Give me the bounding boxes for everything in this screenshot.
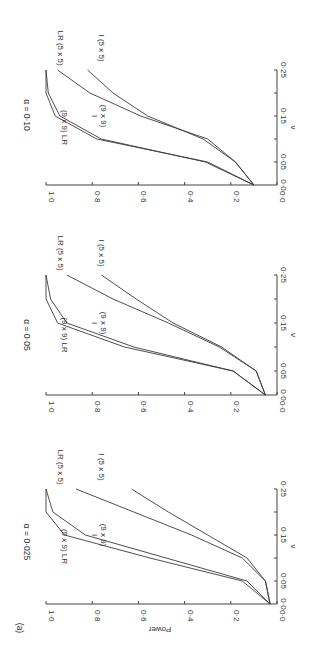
power-tick-label: 0·8 [93, 191, 102, 203]
series-label-5x5-lr: LR (5 x 5) [56, 235, 65, 270]
nu-tick-label: 0·25 [279, 481, 288, 498]
series-label-9x9-lr: (9 x 9) LR [60, 529, 69, 564]
power-tick-label: 0·4 [186, 191, 195, 203]
power-tick-label: 0·8 [93, 401, 102, 413]
power-tick-label: 0·4 [186, 610, 195, 622]
power-tick-label: 0·8 [93, 610, 102, 622]
nu-tick-label: 0·25 [279, 62, 288, 79]
series-label-5x5-lr: LR (5 x 5) [56, 449, 65, 484]
power-tick-label: 0·0 [278, 401, 287, 413]
panel-title: α = 0·05 [22, 319, 32, 351]
series-label-9x9-i: I [90, 534, 99, 536]
nu-tick-label: 0·0 [279, 179, 288, 191]
power-tick-label: 0·4 [186, 401, 195, 413]
series-label-9x9-lr: (9 x 9) LR [60, 110, 69, 145]
series-label-9x9-i-size: (9 x 9) [99, 105, 108, 128]
nu-tick-label: 0·15 [279, 315, 288, 332]
power-tick-label: 0·0 [278, 610, 287, 622]
power-tick-label: 0·2 [232, 610, 241, 622]
panel-alpha-010: 0·00·20·40·60·81·00·00·050·150·25να = 0·… [22, 30, 298, 203]
power-tick-label: 0·2 [232, 191, 241, 203]
nu-tick-label: 0·25 [279, 267, 288, 284]
nu-tick-label: 0·05 [279, 363, 288, 380]
series-label-5x5-lr: LR (5 x 5) [56, 30, 65, 65]
nu-tick-label: 0·0 [279, 389, 288, 401]
curve-i-9-x-9 [46, 489, 270, 604]
panel-title: α = 0·025 [22, 524, 32, 561]
power-tick-label: 0·0 [278, 191, 287, 203]
power-tick-label: 1·0 [47, 401, 56, 413]
series-label-9x9-i-size: (9 x 9) [99, 312, 108, 335]
nu-tick-label: 0·15 [279, 527, 288, 544]
curve-9-x-9-lr [46, 275, 265, 395]
curve-9-x-9-lr [46, 70, 254, 185]
nu-axis-label: ν [289, 545, 298, 549]
curve-lr-5-x-5 [67, 275, 266, 395]
nu-axis-label: ν [289, 126, 298, 130]
series-label-9x9-lr: (9 x 9) LR [60, 317, 69, 352]
curve-i-9-x-9 [46, 275, 265, 395]
power-tick-label: 0·2 [232, 401, 241, 413]
nu-tick-label: 0·05 [279, 573, 288, 590]
figure-label: (a) [15, 623, 25, 634]
nu-tick-label: 0·0 [279, 598, 288, 610]
nu-tick-label: 0·15 [279, 108, 288, 125]
curve-i-5-x-5 [88, 70, 254, 185]
power-tick-label: 0·6 [139, 401, 148, 413]
series-label-9x9-i: I [90, 322, 99, 324]
power-curves-figure: (a) Power 0·00·20·40·60·81·00·00·050·150… [0, 0, 313, 671]
nu-axis-label: ν [289, 333, 298, 337]
panel-alpha-0025: 0·00·20·40·60·81·00·00·050·150·25να = 0·… [22, 449, 298, 622]
power-tick-label: 0·6 [139, 610, 148, 622]
curve-9-x-9-lr [46, 489, 270, 604]
series-label-9x9-i-size: (9 x 9) [99, 524, 108, 547]
power-tick-label: 0·6 [139, 191, 148, 203]
panel-title: α = 0·10 [22, 99, 32, 131]
power-tick-label: 1·0 [47, 610, 56, 622]
nu-tick-label: 0·05 [279, 154, 288, 171]
power-tick-label: 1·0 [47, 191, 56, 203]
power-axis-label: Power [148, 625, 171, 634]
curve-lr-5-x-5 [76, 489, 270, 604]
panel-alpha-005: 0·00·20·40·60·81·00·00·050·150·25να = 0·… [22, 235, 298, 413]
curve-lr-5-x-5 [58, 70, 254, 185]
series-label-5x5-i: I (5 x 5) [97, 453, 106, 480]
series-label-9x9-i: I [90, 115, 99, 117]
curve-i-9-x-9 [46, 70, 254, 185]
series-label-5x5-i: I (5 x 5) [97, 239, 106, 266]
series-label-5x5-i: I (5 x 5) [97, 34, 106, 61]
